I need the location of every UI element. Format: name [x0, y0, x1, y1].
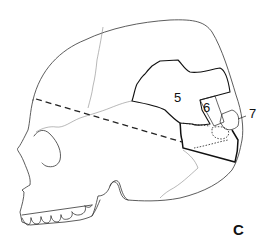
region-7-outline [220, 110, 239, 130]
region-label-6: 6 [203, 100, 210, 115]
lower-block-outline [180, 123, 238, 162]
region-label-5: 5 [174, 90, 181, 105]
teeth [22, 205, 92, 225]
dashed-reference-line [36, 99, 182, 142]
squamosal-suture [36, 101, 132, 132]
region-label-7: 7 [249, 106, 256, 121]
occipital-suture [160, 150, 198, 198]
dotted-ellipse [212, 127, 229, 139]
lower-block-dotted [180, 123, 228, 148]
skull-diagram: 5 6 7 C [0, 0, 269, 243]
orbit-outline [34, 130, 61, 166]
coronal-suture [88, 27, 103, 108]
panel-label: C [233, 221, 244, 238]
